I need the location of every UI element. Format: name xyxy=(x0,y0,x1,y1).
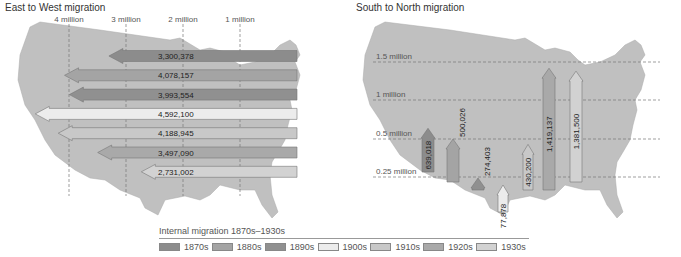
legend-label: 1890s xyxy=(290,242,315,252)
axis-tick-label: 1.5 million xyxy=(376,52,412,61)
legend-swatch xyxy=(265,243,286,251)
value-label: 2,731,002 xyxy=(158,168,194,177)
axis-tick-label: 1 million xyxy=(376,90,405,99)
value-label: 77,878 xyxy=(499,203,508,228)
legend-label: 1870s xyxy=(184,242,209,252)
legend-label: 1930s xyxy=(501,242,526,252)
legend-swatch xyxy=(423,243,444,251)
axis-tick-label: 0.25 million xyxy=(376,167,416,176)
axis-tick-label: 1 million xyxy=(225,15,254,24)
value-label: 639,018 xyxy=(424,140,433,169)
value-label: 3,497,090 xyxy=(158,149,194,158)
legend-item-1890s: 1890s xyxy=(265,242,318,252)
legend-item-1930s: 1930s xyxy=(476,242,529,252)
axis-tick-label: 2 million xyxy=(168,15,197,24)
value-label: 500,026 xyxy=(458,108,467,137)
legend-item-1880s: 1880s xyxy=(212,242,265,252)
value-label: 3,993,554 xyxy=(158,91,194,100)
legend: Internal migration 1870s–1930s 1870s1880… xyxy=(159,226,529,252)
legend-swatch xyxy=(370,243,391,251)
axis-tick-label: 3 million xyxy=(111,15,140,24)
legend-label: 1900s xyxy=(343,242,368,252)
legend-item-1910s: 1910s xyxy=(370,242,423,252)
value-label: 4,592,100 xyxy=(158,110,194,119)
value-label: 1,381,500 xyxy=(572,113,581,149)
axis-tick-label: 0.5 million xyxy=(376,129,412,138)
legend-label: 1920s xyxy=(448,242,473,252)
legend-label: 1910s xyxy=(395,242,420,252)
arrow-bar-1870s xyxy=(109,49,297,64)
legend-swatch xyxy=(159,243,180,251)
legend-title: Internal migration 1870s–1930s xyxy=(159,226,529,239)
axis-tick-label: 4 million xyxy=(54,15,83,24)
legend-item-1920s: 1920s xyxy=(423,242,476,252)
legend-label: 1880s xyxy=(237,242,262,252)
value-label: 4,078,157 xyxy=(158,71,194,80)
legend-item-1870s: 1870s xyxy=(159,242,212,252)
legend-swatch xyxy=(476,243,497,251)
legend-swatch xyxy=(318,243,339,251)
value-label: 430,200 xyxy=(524,157,533,186)
value-label: 274,403 xyxy=(483,147,492,176)
value-label: 1,419,137 xyxy=(545,116,554,152)
migration-chart: 4 million3 million2 million1 million 3,3… xyxy=(0,0,681,257)
legend-swatch xyxy=(212,243,233,251)
value-label: 3,300,378 xyxy=(158,52,194,61)
arrow-bar-1920s xyxy=(98,145,297,160)
value-label: 4,188,945 xyxy=(158,129,194,138)
legend-item-1900s: 1900s xyxy=(318,242,371,252)
